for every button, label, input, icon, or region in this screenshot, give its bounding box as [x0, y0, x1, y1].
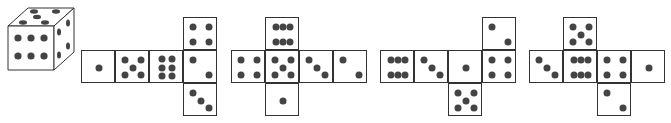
pip: [437, 72, 444, 79]
die-face-3: [183, 83, 217, 116]
pip: [402, 57, 409, 64]
pip: [130, 64, 137, 71]
pip: [206, 39, 213, 46]
die-face-4: [183, 17, 217, 50]
pip: [159, 56, 166, 63]
pip: [586, 39, 593, 46]
pip: [429, 64, 436, 71]
pip: [571, 57, 578, 64]
pip: [206, 72, 213, 79]
pip: [586, 24, 593, 31]
pip: [138, 72, 145, 79]
pip: [544, 64, 551, 71]
pip: [122, 72, 129, 79]
pip: [159, 73, 166, 80]
pip: [463, 97, 470, 104]
pip: [471, 105, 478, 112]
die-face-3: [299, 50, 333, 83]
pip: [455, 105, 462, 112]
die-face-5: [115, 50, 149, 83]
pip: [190, 39, 197, 46]
pip: [620, 105, 627, 112]
pip: [570, 39, 577, 46]
pip: [272, 57, 279, 64]
pip: [190, 90, 197, 97]
die-face-4: [482, 50, 516, 83]
pip: [96, 64, 103, 71]
pip: [169, 73, 176, 80]
pip: [571, 72, 578, 79]
pip: [585, 72, 592, 79]
pip: [455, 90, 462, 97]
pip: [287, 39, 294, 46]
pip: [620, 72, 627, 79]
pip: [604, 57, 611, 64]
pip: [604, 90, 611, 97]
pip: [505, 72, 512, 79]
pip: [280, 39, 287, 46]
pip: [585, 57, 592, 64]
pip: [570, 24, 577, 31]
die-face-1: [81, 50, 115, 83]
pip: [273, 24, 280, 31]
die-face-3: [529, 50, 563, 83]
pip: [322, 72, 329, 79]
pip: [463, 64, 470, 71]
pip: [421, 57, 428, 64]
pip: [122, 57, 129, 64]
pip: [238, 57, 245, 64]
pip: [395, 72, 402, 79]
pip: [402, 72, 409, 79]
die-face-5: [563, 17, 597, 50]
die-face-1: [265, 83, 299, 116]
pip: [280, 97, 287, 104]
die-face-5: [265, 50, 299, 83]
die-face-2: [333, 50, 367, 83]
pip: [198, 97, 205, 104]
die-face-2: [482, 17, 516, 50]
pip: [287, 24, 294, 31]
pip: [552, 72, 559, 79]
pip: [604, 72, 611, 79]
pip: [288, 72, 295, 79]
die-face-2: [183, 50, 217, 83]
pip: [578, 72, 585, 79]
pip: [536, 57, 543, 64]
pip: [578, 31, 585, 38]
die-face-4: [597, 50, 631, 83]
die-face-1: [631, 50, 665, 83]
die-face-1: [448, 50, 482, 83]
pip: [306, 57, 313, 64]
pip: [159, 64, 166, 71]
die-face-4: [231, 50, 265, 83]
pip: [489, 24, 496, 31]
die-face-6: [380, 50, 414, 83]
pip: [314, 64, 321, 71]
die-face-5: [448, 83, 482, 116]
pip: [489, 57, 496, 64]
die-face-2: [597, 83, 631, 116]
die-face-6: [563, 50, 597, 83]
pip: [388, 57, 395, 64]
pip: [138, 57, 145, 64]
pip: [272, 72, 279, 79]
pip: [388, 72, 395, 79]
pip: [273, 39, 280, 46]
pip: [471, 90, 478, 97]
pip: [395, 57, 402, 64]
pip: [620, 57, 627, 64]
die-face-3: [414, 50, 448, 83]
pip: [505, 39, 512, 46]
pip: [169, 56, 176, 63]
pip: [578, 57, 585, 64]
reference-cube: [4, 2, 78, 74]
pip: [190, 24, 197, 31]
pip: [280, 24, 287, 31]
pip: [646, 64, 653, 71]
pip: [190, 57, 197, 64]
pip: [254, 72, 261, 79]
die-face-6: [149, 50, 183, 83]
pip: [340, 57, 347, 64]
die-face-6: [265, 17, 299, 50]
pip: [254, 57, 261, 64]
